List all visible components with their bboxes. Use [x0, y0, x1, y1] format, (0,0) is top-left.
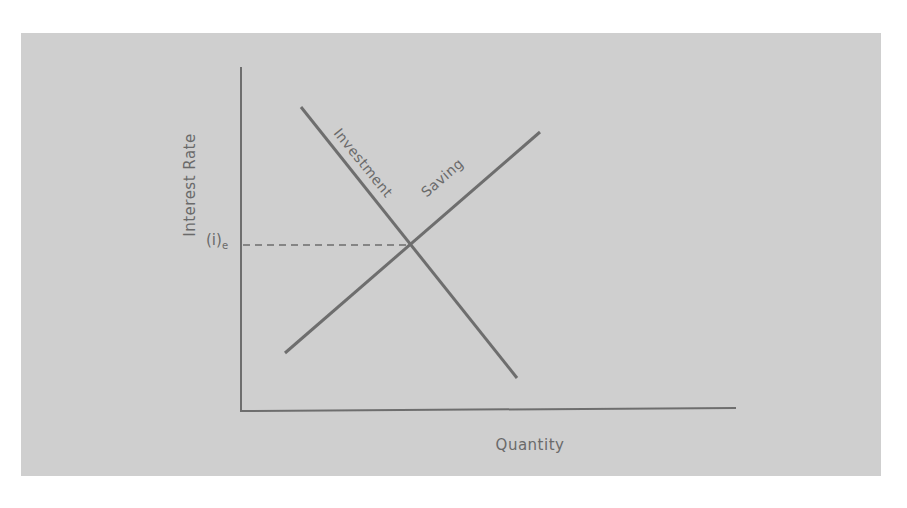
equilibrium-rate-label: (i)e — [206, 231, 228, 251]
x-axis — [240, 408, 736, 411]
supply-demand-diagram — [0, 0, 907, 508]
equilibrium-rate-symbol: (i) — [206, 231, 222, 249]
investment-curve — [301, 107, 517, 378]
equilibrium-subscript: e — [222, 240, 228, 251]
y-axis-label: Interest Rate — [181, 133, 199, 236]
saving-curve — [285, 132, 540, 353]
x-axis-label: Quantity — [496, 436, 565, 454]
